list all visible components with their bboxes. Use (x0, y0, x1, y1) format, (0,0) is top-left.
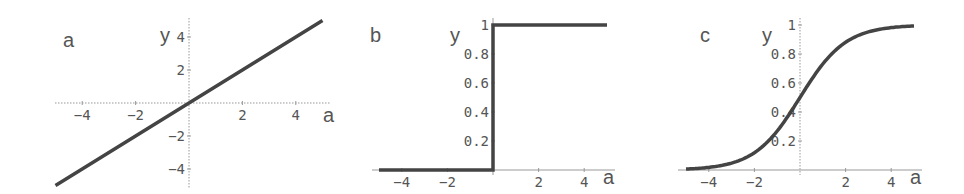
y-tick-label: 0.4 (464, 104, 489, 120)
y-axis-label: y (160, 24, 170, 46)
y-tick-label: 0.6 (464, 75, 489, 91)
y-tick-label: 2 (177, 62, 185, 78)
x-tick-label: −2 (127, 107, 144, 123)
y-tick-label: −4 (168, 161, 185, 177)
x-tick-label: 4 (887, 174, 895, 190)
y-tick-label: 0.8 (464, 46, 489, 62)
panel-c: −4−22410.80.60.40.2cya (678, 17, 922, 190)
panel-b: −4−22410.80.60.40.2bya (370, 17, 615, 190)
panel-a: −4−22442−2−4aya (55, 18, 335, 188)
panel-label: a (63, 29, 75, 51)
y-axis-label: y (762, 24, 772, 46)
x-axis-label: a (910, 166, 922, 188)
y-tick-label: −2 (168, 128, 185, 144)
x-axis-label: a (603, 166, 615, 188)
x-tick-label: −4 (393, 174, 410, 190)
x-tick-label: 4 (292, 107, 300, 123)
panel-label: b (370, 24, 381, 46)
x-tick-label: −4 (700, 174, 717, 190)
x-tick-label: 2 (841, 174, 849, 190)
x-axis-label: a (323, 104, 335, 126)
y-tick-label: 1 (481, 17, 489, 33)
x-tick-label: −2 (746, 174, 763, 190)
y-axis-label: y (450, 24, 460, 46)
curve-step (379, 25, 607, 170)
y-tick-label: 4 (177, 29, 185, 45)
panel-label: c (700, 24, 710, 46)
y-tick-label: 1 (788, 17, 796, 33)
x-tick-label: 2 (238, 107, 246, 123)
x-tick-label: 2 (534, 174, 542, 190)
y-tick-label: 0.8 (771, 46, 796, 62)
y-tick-label: 0.6 (771, 75, 796, 91)
y-tick-label: 0.2 (464, 133, 489, 149)
x-tick-label: 4 (580, 174, 588, 190)
x-tick-label: −4 (74, 107, 91, 123)
x-tick-label: −2 (439, 174, 456, 190)
figure: −4−22442−2−4aya−4−22410.80.60.40.2bya−4−… (0, 0, 964, 194)
